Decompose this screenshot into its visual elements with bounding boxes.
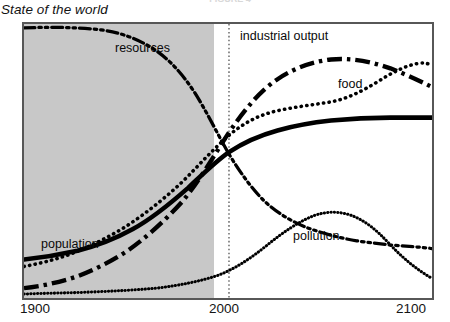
label-resources: resources <box>115 41 170 55</box>
y-axis-caption: State of the world <box>1 2 108 17</box>
curve-pollution <box>24 212 432 294</box>
label-food: food <box>338 77 362 91</box>
curve-industrial-output <box>24 59 432 288</box>
curves-layer <box>24 24 432 298</box>
curve-resources <box>24 27 432 248</box>
plot-frame <box>22 22 434 300</box>
label-population: population <box>41 237 99 251</box>
cut-off-caption: FIGURE 4 <box>150 0 310 3</box>
x-tick-1900: 1900 <box>20 301 50 316</box>
x-tick-2100: 2100 <box>396 301 426 316</box>
label-pollution: pollution <box>293 229 340 243</box>
x-tick-2000: 2000 <box>209 301 239 316</box>
curve-food <box>24 63 432 266</box>
label-industrial-output: industrial output <box>240 29 328 43</box>
figure-state-of-the-world: FIGURE 4 State of the world 1900 2000 21… <box>0 0 450 322</box>
